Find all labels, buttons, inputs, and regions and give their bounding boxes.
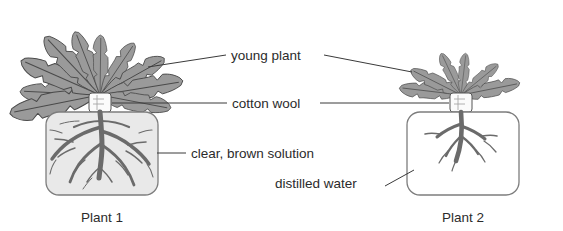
plant-2-cotton-wool-plug: [450, 93, 472, 112]
callout-clear-brown-solution: clear, brown solution: [157, 146, 314, 161]
specimen-plant-1: Plant 1: [7, 28, 184, 225]
label-distilled-water: distilled water: [275, 176, 357, 191]
callout-distilled-water: distilled water: [275, 170, 414, 191]
caption-plant-1: Plant 1: [81, 210, 123, 225]
label-young-plant: young plant: [231, 48, 301, 63]
caption-plant-2: Plant 2: [442, 210, 484, 225]
experiment-diagram: Plant 1: [0, 0, 563, 231]
label-cotton-wool: cotton wool: [232, 96, 300, 111]
plant-1-cotton-wool-plug: [89, 93, 111, 112]
specimen-plant-2: Plant 2: [398, 51, 521, 225]
callout-young-plant: young plant: [148, 48, 412, 72]
leader-young-plant-right: [324, 55, 412, 72]
label-clear-brown-solution: clear, brown solution: [191, 146, 314, 161]
